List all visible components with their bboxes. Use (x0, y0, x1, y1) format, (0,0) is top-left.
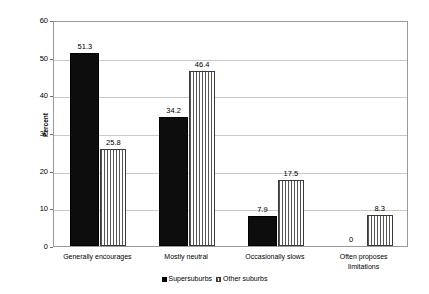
bar-chart: Percent 0102030405060 51.325.834.246.47.… (0, 0, 429, 294)
bar-value-label: 46.4 (183, 61, 221, 69)
bar-value-label: 51.3 (64, 43, 105, 51)
bar-value-label: 0 (331, 236, 372, 244)
bar-value-label: 8.3 (361, 205, 399, 213)
y-tick-label: 0 (22, 243, 48, 251)
bar-value-label: 25.8 (94, 139, 132, 147)
bar-value-label: 34.2 (153, 107, 194, 115)
bar (189, 71, 215, 246)
legend-label: Supersuburbs (169, 275, 213, 283)
y-tick-label: 20 (22, 168, 48, 176)
bar (367, 215, 393, 246)
bar (70, 53, 99, 246)
legend-swatch-icon (216, 277, 221, 282)
x-label-line: limitations (309, 262, 419, 272)
legend-entry: Supersuburbs (162, 275, 213, 283)
y-tick-label: 60 (22, 17, 48, 25)
bar-value-label: 7.9 (242, 206, 283, 214)
bar (159, 117, 188, 246)
x-axis-label: Often proposeslimitations (309, 252, 419, 271)
bar (278, 180, 304, 246)
y-axis-title: Percent (42, 95, 49, 155)
legend-entry: Other suburbs (216, 275, 267, 283)
gridline (54, 135, 407, 136)
bar (100, 149, 126, 246)
plot-area: 51.325.834.246.47.917.508.3 (53, 21, 408, 247)
legend-swatch-icon (162, 277, 167, 282)
y-tick-label: 10 (22, 205, 48, 213)
legend-label: Other suburbs (223, 275, 267, 283)
x-label-line: Often proposes (309, 252, 419, 262)
gridline (54, 60, 407, 61)
bar (248, 216, 277, 246)
gridline (54, 97, 407, 98)
chart-legend: SupersuburbsOther suburbs (0, 275, 429, 283)
y-tick-label: 40 (22, 92, 48, 100)
y-tick-label: 50 (22, 55, 48, 63)
y-tick-label: 30 (22, 130, 48, 138)
y-tick-mark (50, 247, 53, 248)
bar-value-label: 17.5 (272, 170, 310, 178)
